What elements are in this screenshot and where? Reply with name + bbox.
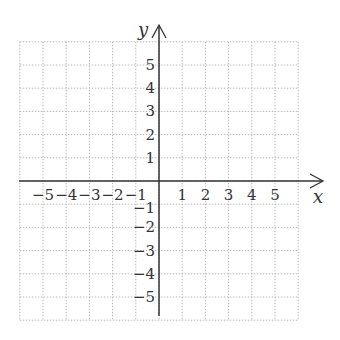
x-tick-label: 4 xyxy=(247,186,257,204)
y-tick-label: 5 xyxy=(145,56,155,74)
x-axis-label: x xyxy=(313,186,323,207)
y-tick-label: 3 xyxy=(145,102,155,120)
x-tick-label: −2 xyxy=(102,186,124,204)
x-tick-label: −4 xyxy=(55,186,77,204)
x-tick-label: 1 xyxy=(177,186,187,204)
coordinate-plane: x y −5−4−3−2−112345 54321−1−2−3−4−5 xyxy=(0,0,340,340)
y-axis-label: y xyxy=(137,19,149,40)
y-tick-label: −1 xyxy=(133,199,155,217)
y-tick-label: −4 xyxy=(133,265,155,283)
y-tick-label: −5 xyxy=(133,288,155,306)
x-tick-label: −5 xyxy=(32,186,54,204)
y-tick-label: 2 xyxy=(145,126,155,144)
y-tick-label: −3 xyxy=(133,242,155,260)
y-tick-label: 4 xyxy=(145,79,155,97)
x-tick-label: 2 xyxy=(201,186,211,204)
x-tick-label: 5 xyxy=(270,186,280,204)
y-tick-label: 1 xyxy=(145,149,155,167)
x-tick-label: −3 xyxy=(78,186,100,204)
y-tick-label: −2 xyxy=(133,218,155,236)
x-tick-label: 3 xyxy=(224,186,234,204)
x-tick-labels: −5−4−3−2−112345 xyxy=(32,186,280,204)
